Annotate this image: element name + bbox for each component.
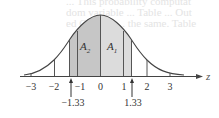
tick-label: −1 — [75, 81, 86, 92]
tick-label: −3 — [26, 81, 37, 92]
vertical-gridlines — [55, 15, 148, 76]
normal-curve-diagram: z −3 −2 −1 0 1 2 3 A2 A1 −1.33 1.33 — [0, 0, 219, 118]
up-arrow-icon — [69, 78, 73, 83]
marker-label-pos: 1.33 — [124, 97, 142, 108]
tick-label: 1 — [122, 81, 127, 92]
tick-label: −2 — [49, 81, 60, 92]
tick-label: 2 — [145, 81, 150, 92]
marker-label-neg: −1.33 — [61, 97, 84, 108]
tick-label: 0 — [98, 81, 103, 92]
tick-label: 3 — [168, 81, 173, 92]
area-a1-shading — [101, 15, 132, 76]
axis-label-z: z — [205, 70, 211, 82]
up-arrow-icon — [130, 78, 134, 83]
axis-arrowhead-icon — [196, 74, 203, 79]
